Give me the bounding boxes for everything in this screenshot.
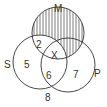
region-outside: 8 (45, 92, 51, 103)
venn-svg: M S P 2 X 5 6 7 8 (0, 0, 107, 107)
label-set-p: P (94, 68, 101, 79)
label-set-m: M (54, 3, 62, 14)
label-set-s: S (4, 59, 11, 70)
region-s-only: 5 (24, 59, 30, 70)
region-s-m: 2 (36, 39, 42, 50)
region-p-only: 7 (73, 69, 79, 80)
venn-diagram: M S P 2 X 5 6 7 8 (0, 0, 107, 107)
region-s-p: 6 (46, 70, 52, 81)
region-s-m-p: X (51, 50, 58, 61)
